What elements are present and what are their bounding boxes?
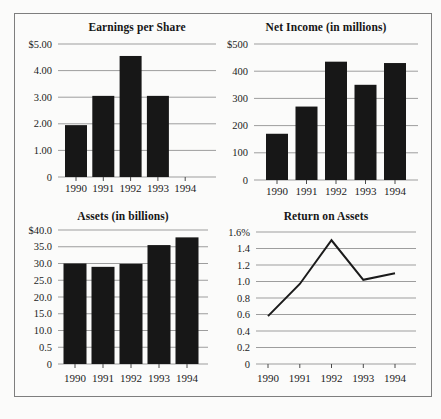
assets-chart: Assets (in billions) $40.035.030.025.020… [17,206,223,397]
y-tick-label: 100 [232,147,248,158]
y-tick-label: 30.0 [34,258,52,269]
x-tick-label: 1991 [289,372,311,384]
y-tick-label: 0 [243,175,248,186]
y-tick-label: 400 [232,66,248,77]
y-tick-label: 1.6% [228,227,250,238]
y-tick-label: 20.0 [34,292,52,303]
x-tick-label: 1993 [355,185,378,197]
bar-1991 [296,107,318,180]
x-tick-label: 1992 [321,372,343,384]
y-tick-label: 0.2 [237,342,250,353]
bar-1992 [325,62,347,180]
x-tick-label: 1991 [92,372,114,384]
return-on-assets-plot: 1.6%1.41.21.00.80.60.40.2019901991199219… [223,206,431,397]
y-tick-label: 4.00 [34,65,52,76]
bar-1991 [92,96,114,177]
x-tick-label: 1994 [174,182,197,194]
assets-plot: $40.035.030.025.020.015.010.00.501990199… [17,206,223,397]
net-income-chart: Net Income (in millions) $50040030020010… [223,15,431,206]
x-tick-label: 1993 [148,372,171,384]
x-tick-label: 1993 [352,372,375,384]
y-tick-label: 3.00 [34,92,52,103]
y-tick-label: 1.0 [237,276,250,287]
y-tick-label: 0 [47,359,52,370]
y-tick-label: $5.00 [28,39,52,50]
y-tick-label: 0.6 [237,309,250,320]
y-tick-label: 1.00 [34,145,52,156]
y-tick-label: 2.00 [34,118,52,129]
x-tick-label: 1990 [266,185,289,197]
y-tick-label: 35.0 [34,241,52,252]
net-income-plot: $500400300200100019901991199219931994 [223,15,431,206]
bar-1994 [176,237,199,364]
bar-1992 [120,264,143,364]
y-tick-label: 0 [245,359,250,370]
y-tick-label: 0 [47,172,52,183]
bar-1994 [384,63,406,180]
bar-1993 [355,85,377,180]
series-line [268,240,395,316]
x-tick-label: 1994 [384,372,407,384]
bar-1990 [266,134,288,180]
bar-1992 [120,56,142,177]
y-tick-label: 0.8 [237,293,250,304]
x-tick-label: 1990 [65,182,88,194]
x-tick-label: 1991 [92,182,114,194]
x-tick-label: 1990 [64,372,87,384]
x-tick-label: 1991 [296,185,318,197]
x-tick-label: 1993 [147,182,170,194]
y-tick-label: 0.5 [39,342,52,353]
bar-1991 [92,267,115,364]
x-tick-label: 1992 [120,372,142,384]
return-on-assets-chart: Return on Assets 1.6%1.41.21.00.80.60.40… [223,206,431,397]
y-tick-label: 1.4 [237,243,251,254]
y-tick-label: 1.2 [237,260,250,271]
figure-frame: Earnings per Share $5.004.003.002.001.00… [14,13,432,397]
y-tick-label: $40.0 [28,225,52,236]
x-tick-label: 1994 [176,372,199,384]
earnings-per-share-chart: Earnings per Share $5.004.003.002.001.00… [17,15,223,206]
y-tick-label: 15.0 [34,308,52,319]
page: { "page": { "background": "#fbfbfa", "fr… [0,0,441,419]
bar-1990 [65,125,87,177]
y-tick-label: 0.4 [237,326,251,337]
x-tick-label: 1992 [325,185,347,197]
bar-1993 [147,96,169,177]
earnings-per-share-plot: $5.004.003.002.001.000199019911992199319… [17,15,223,206]
bar-1990 [64,264,87,365]
y-tick-label: 300 [232,93,248,104]
y-tick-label: 10.0 [34,325,52,336]
bar-1993 [148,245,171,364]
y-tick-label: $500 [227,39,248,50]
x-tick-label: 1990 [257,372,280,384]
x-tick-label: 1994 [384,185,407,197]
y-tick-label: 25.0 [34,275,52,286]
x-tick-label: 1992 [120,182,142,194]
y-tick-label: 200 [232,120,248,131]
